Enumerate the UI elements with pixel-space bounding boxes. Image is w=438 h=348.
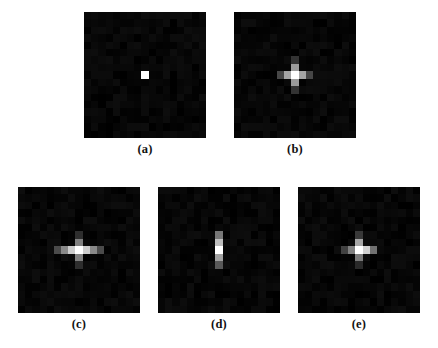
heatmap-e: [298, 187, 420, 313]
figure-panel-c: (c): [18, 187, 140, 313]
panel-label-e: (e): [298, 317, 420, 332]
panel-label-b: (b): [234, 142, 356, 157]
heatmap-b: [234, 12, 356, 138]
panel-label-a: (a): [84, 142, 206, 157]
heatmap-canvas-e: [298, 187, 420, 313]
heatmap-d: [158, 187, 280, 313]
heatmap-canvas-a: [84, 12, 206, 138]
figure-panel-e: (e): [298, 187, 420, 313]
panel-label-d: (d): [158, 317, 280, 332]
figure-panel-grid: (a) (b) (c) (d) (e): [0, 0, 438, 348]
heatmap-canvas-c: [18, 187, 140, 313]
heatmap-canvas-b: [234, 12, 356, 138]
figure-panel-b: (b): [234, 12, 356, 138]
heatmap-c: [18, 187, 140, 313]
figure-panel-a: (a): [84, 12, 206, 138]
heatmap-canvas-d: [158, 187, 280, 313]
figure-panel-d: (d): [158, 187, 280, 313]
heatmap-a: [84, 12, 206, 138]
panel-label-c: (c): [18, 317, 140, 332]
